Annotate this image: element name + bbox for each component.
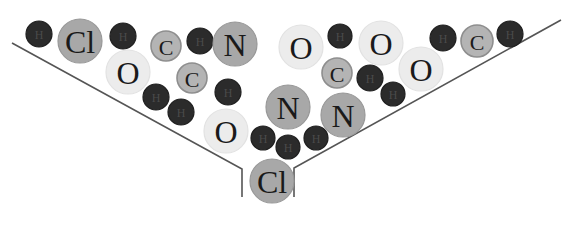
atom-n: N [213, 22, 257, 66]
atom-label: Cl [65, 24, 95, 60]
atom-label: H [119, 30, 128, 44]
atom-label: H [439, 32, 448, 46]
atom-label: O [289, 30, 312, 66]
atom-label: H [284, 141, 293, 155]
atom-label: C [185, 67, 200, 92]
atom-h: H [276, 135, 300, 159]
atom-label: H [259, 132, 268, 146]
atom-label: H [312, 132, 321, 146]
atom-h: H [381, 82, 405, 106]
atom-label: O [409, 52, 432, 88]
atom-o: O [106, 50, 150, 94]
atom-label: O [369, 26, 392, 62]
atom-label: C [159, 35, 174, 60]
atom-label: H [35, 28, 44, 42]
atom-h: H [215, 79, 241, 105]
atom-h: H [187, 28, 213, 54]
atom-h: H [26, 21, 52, 47]
atom-label: O [214, 114, 237, 150]
atom-c: C [322, 58, 352, 88]
atom-h: H [497, 21, 523, 47]
atom-o: O [204, 109, 248, 153]
atom-label: N [276, 90, 299, 126]
atom-label: H [196, 35, 205, 49]
atom-c: C [461, 25, 493, 57]
atom-h: H [143, 84, 169, 110]
atom-h: H [168, 99, 194, 125]
atom-label: H [177, 106, 186, 120]
atom-cl: Cl [58, 19, 102, 63]
atom-funnel-diagram: HClHCHNOCHHHOHOCHHOHCHNNOHHHCl [0, 0, 574, 228]
atom-o: O [359, 21, 403, 65]
atom-h: H [304, 126, 328, 150]
atom-label: H [224, 86, 233, 100]
atom-n: N [266, 85, 310, 129]
atom-o: O [399, 47, 443, 91]
atom-cl: Cl [250, 159, 294, 203]
atom-c: C [177, 63, 207, 93]
atom-label: H [336, 30, 345, 44]
atom-label: Cl [257, 164, 287, 200]
atom-c: C [151, 31, 181, 61]
atom-label: H [152, 91, 161, 105]
atom-h: H [357, 65, 383, 91]
atom-label: H [506, 28, 515, 42]
atom-label: H [366, 72, 375, 86]
atom-h: H [430, 25, 456, 51]
atom-label: N [223, 27, 246, 63]
diagram-canvas: HClHCHNOCHHHOHOCHHOHCHNNOHHHCl [0, 0, 574, 228]
atom-n: N [321, 93, 365, 137]
atom-label: N [331, 98, 354, 134]
atom-h: H [328, 24, 352, 48]
atoms-group: HClHCHNOCHHHOHOCHHOHCHNNOHHHCl [26, 19, 523, 203]
atom-label: C [470, 30, 485, 55]
atom-h: H [110, 23, 136, 49]
atom-o: O [279, 25, 323, 69]
atom-label: O [116, 55, 139, 91]
atom-label: C [330, 62, 345, 87]
atom-h: H [251, 126, 275, 150]
atom-label: H [389, 88, 398, 102]
